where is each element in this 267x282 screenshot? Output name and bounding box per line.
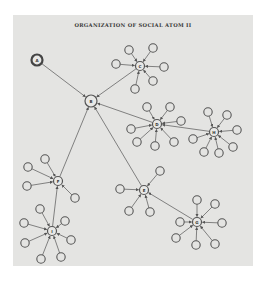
satellite-edge <box>42 213 49 226</box>
satellite-edge <box>56 224 61 228</box>
satellite-edge <box>200 226 212 240</box>
satellite-edge <box>215 137 218 149</box>
satellite-edge <box>155 129 156 141</box>
satellite-node-g-3 <box>176 218 184 226</box>
node-g: G <box>193 218 202 227</box>
satellite-node-e-4 <box>146 208 154 216</box>
satellite-edge <box>160 110 167 119</box>
satellite-edge <box>135 125 151 128</box>
satellite-edge <box>43 236 50 255</box>
satellite-edge <box>206 137 212 148</box>
satellite-node-i-6 <box>37 255 45 263</box>
node-h: H <box>210 128 219 137</box>
node-label: C <box>139 64 142 69</box>
node-label: E <box>143 188 146 193</box>
satellite-node-c-3 <box>112 60 120 68</box>
satellite-node-g-2 <box>211 200 219 208</box>
edge-h-to-d <box>162 125 209 132</box>
node-f: F <box>54 177 63 186</box>
node-b: B <box>85 95 97 107</box>
node-label: B <box>89 99 92 104</box>
edge-f-to-b <box>60 107 88 176</box>
edge-a-to-b <box>42 64 86 97</box>
satellite-edge <box>140 128 153 140</box>
satellite-node-h-5 <box>200 148 208 156</box>
satellite-node-f-4 <box>71 194 79 202</box>
satellite-edge <box>120 64 134 65</box>
edge-i-to-f <box>53 186 58 226</box>
satellite-node-g-1 <box>193 196 201 204</box>
satellite-node-g-6 <box>192 241 200 249</box>
nodes-layer: ABCDHFIEG <box>32 55 219 236</box>
satellite-edge <box>217 118 224 127</box>
node-label: G <box>195 220 198 225</box>
satellite-edge <box>124 189 138 190</box>
satellite-node-i-1 <box>36 205 44 213</box>
satellite-node-i-3 <box>61 217 69 225</box>
satellite-node-d-2 <box>166 103 174 111</box>
satellite-edge <box>32 169 53 179</box>
satellite-edge <box>131 53 137 61</box>
satellite-node-g-4 <box>218 219 226 227</box>
satellite-node-g-7 <box>211 240 219 248</box>
satellite-node-d-4 <box>127 125 135 133</box>
satellite-edge <box>57 233 67 238</box>
satellite-edge <box>218 135 229 144</box>
satellite-edge <box>149 111 154 120</box>
satellite-node-i-2 <box>20 219 28 227</box>
satellite-edge <box>202 222 217 223</box>
satellite-node-d-7 <box>170 138 178 146</box>
satellite-edge <box>144 70 151 78</box>
satellite-edge <box>161 128 171 139</box>
edge-g-to-e <box>149 193 193 220</box>
satellite-edge <box>29 233 47 241</box>
satellite-edge <box>145 66 159 67</box>
node-c: C <box>136 62 145 71</box>
satellite-node-h-1 <box>204 108 212 116</box>
satellite-node-d-5 <box>133 138 141 146</box>
satellite-edge <box>145 195 148 208</box>
satellite-edge <box>209 116 212 127</box>
node-e: E <box>140 186 149 195</box>
sociogram: ABCDHFIEG <box>0 0 267 282</box>
node-label: F <box>57 179 60 184</box>
satellite-node-i-5 <box>67 236 75 244</box>
satellite-node-h-7 <box>229 143 237 151</box>
satellite-edge <box>31 182 52 185</box>
satellite-node-f-1 <box>41 155 49 163</box>
satellite-node-c-1 <box>125 46 133 54</box>
satellite-node-f-3 <box>23 182 31 190</box>
satellite-edge <box>62 185 72 195</box>
satellite-edge <box>201 207 212 218</box>
satellite-node-c-4 <box>160 63 168 71</box>
satellite-node-h-4 <box>189 135 197 143</box>
satellite-node-e-3 <box>125 207 133 215</box>
satellite-edge <box>148 174 158 186</box>
edge-c-to-b <box>97 69 136 97</box>
satellite-edge <box>162 122 176 124</box>
satellite-node-i-7 <box>57 253 65 261</box>
satellite-node-c-2 <box>149 44 157 52</box>
satellite-edge <box>28 224 47 229</box>
satellite-node-h-2 <box>223 111 231 119</box>
satellite-node-h-6 <box>215 149 223 157</box>
satellite-edge <box>219 130 232 131</box>
satellite-edge <box>54 236 60 253</box>
satellite-node-i-4 <box>21 239 29 247</box>
edge-e-to-b <box>95 107 142 186</box>
satellite-node-f-2 <box>24 163 32 171</box>
satellite-node-c-5 <box>149 77 157 85</box>
satellite-node-d-1 <box>143 103 151 111</box>
node-a: A <box>32 55 43 66</box>
satellite-edge <box>196 227 197 240</box>
satellite-edge <box>197 134 209 138</box>
satellite-edge <box>136 71 139 85</box>
satellite-edge <box>179 225 192 235</box>
node-d: D <box>153 120 162 129</box>
satellite-node-c-6 <box>131 85 139 93</box>
node-label: H <box>212 130 215 135</box>
satellite-node-d-3 <box>177 117 185 125</box>
satellite-node-e-1 <box>156 167 164 175</box>
satellite-node-g-5 <box>172 234 180 242</box>
satellite-edge <box>143 51 150 61</box>
